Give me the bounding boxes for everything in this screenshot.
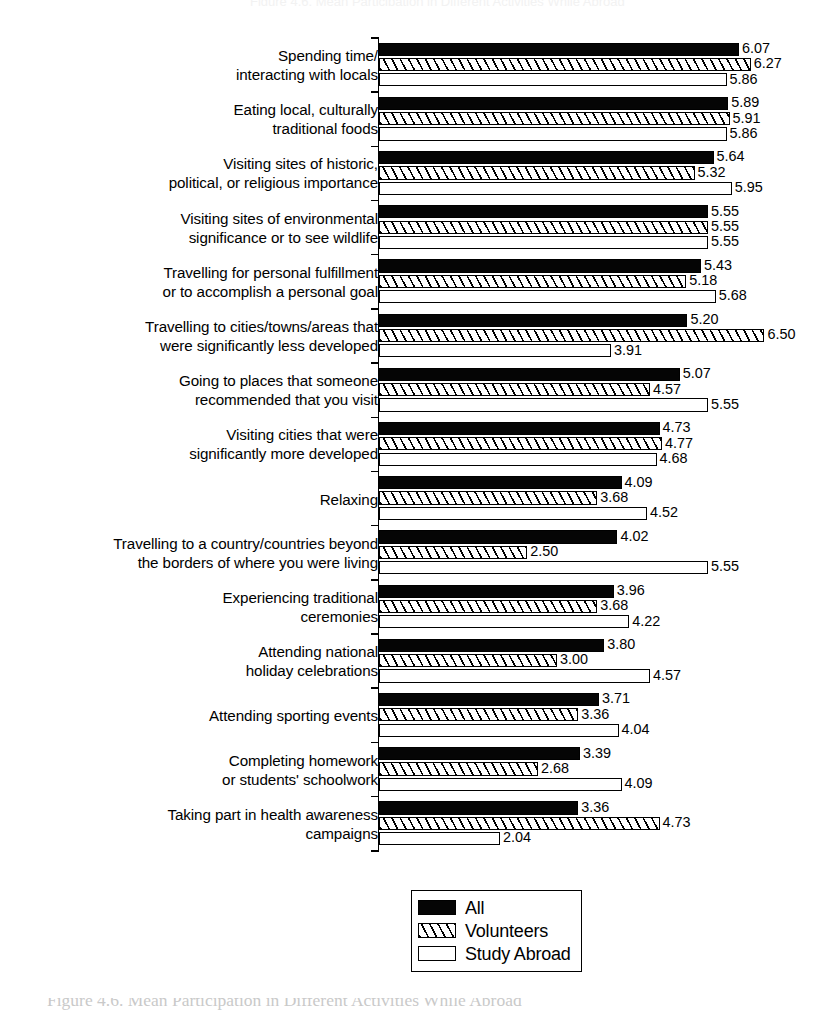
bar-sa bbox=[379, 832, 500, 845]
bar-value-label: 4.04 bbox=[619, 722, 650, 737]
bar-value-label: 5.86 bbox=[727, 126, 758, 141]
bar-row: 5.55 bbox=[379, 205, 819, 220]
bar-value-label: 5.91 bbox=[730, 111, 761, 126]
bar-sa bbox=[379, 398, 708, 411]
bar-value-label: 4.02 bbox=[617, 529, 648, 544]
bar-value-label: 5.55 bbox=[708, 219, 739, 234]
bar-row: 3.36 bbox=[379, 801, 819, 816]
bar-group: Visiting sites of environmental signific… bbox=[0, 201, 834, 255]
bar-row: 5.55 bbox=[379, 235, 819, 250]
bar-row: 3.96 bbox=[379, 584, 819, 599]
bar-value-label: 2.04 bbox=[500, 830, 531, 845]
bar-all bbox=[379, 693, 599, 706]
bar-row: 3.39 bbox=[379, 747, 819, 762]
legend-item-volunteers: Volunteers bbox=[418, 919, 571, 942]
bar-sa bbox=[379, 453, 657, 466]
bar-value-label: 6.07 bbox=[739, 41, 770, 56]
bar-stack: 5.074.575.55 bbox=[379, 367, 819, 413]
bar-vol bbox=[379, 708, 578, 721]
bar-value-label: 4.09 bbox=[622, 776, 653, 791]
bar-row: 2.50 bbox=[379, 545, 819, 560]
bar-row: 4.57 bbox=[379, 669, 819, 684]
legend-label-all: All bbox=[465, 898, 484, 918]
legend-swatch-study-abroad-icon bbox=[418, 946, 456, 961]
category-label: Relaxing bbox=[48, 489, 378, 508]
bar-row: 5.86 bbox=[379, 127, 819, 142]
bar-sa bbox=[379, 507, 647, 520]
bar-all bbox=[379, 422, 660, 435]
bar-sa bbox=[379, 561, 708, 574]
category-label: Completing homework or students' schoolw… bbox=[48, 751, 378, 789]
bar-group: Travelling to a country/countries beyond… bbox=[0, 526, 834, 580]
category-label: Travelling to a country/countries beyond… bbox=[48, 534, 378, 572]
category-label: Experiencing traditional ceremonies bbox=[48, 588, 378, 626]
bar-row: 3.68 bbox=[379, 599, 819, 614]
bar-row: 5.95 bbox=[379, 181, 819, 196]
bar-value-label: 3.36 bbox=[578, 800, 609, 815]
category-label: Travelling for personal fulfillment or t… bbox=[48, 263, 378, 301]
figure-container: Figure 4.6. Mean Participation in Differ… bbox=[0, 0, 834, 1010]
bar-value-label: 3.68 bbox=[597, 598, 628, 613]
bar-row: 6.07 bbox=[379, 42, 819, 57]
bar-row: 4.22 bbox=[379, 615, 819, 630]
bar-value-label: 5.32 bbox=[695, 165, 726, 180]
bar-row: 4.68 bbox=[379, 452, 819, 467]
bar-row: 4.04 bbox=[379, 723, 819, 738]
bar-row: 5.55 bbox=[379, 560, 819, 575]
bar-vol bbox=[379, 654, 557, 667]
bar-vol bbox=[379, 546, 527, 559]
bar-value-label: 5.55 bbox=[708, 559, 739, 574]
bar-sa bbox=[379, 73, 727, 86]
legend-swatch-volunteers-icon bbox=[418, 923, 456, 938]
bar-stack: 3.963.684.22 bbox=[379, 584, 819, 630]
bar-value-label: 5.55 bbox=[708, 204, 739, 219]
bar-value-label: 4.57 bbox=[650, 668, 681, 683]
bar-row: 4.77 bbox=[379, 437, 819, 452]
bar-all bbox=[379, 585, 614, 598]
bar-value-label: 3.71 bbox=[599, 691, 630, 706]
bar-sa bbox=[379, 290, 716, 303]
bar-sa bbox=[379, 778, 622, 791]
bar-row: 4.73 bbox=[379, 816, 819, 831]
bar-row: 5.07 bbox=[379, 367, 819, 382]
bar-row: 4.52 bbox=[379, 506, 819, 521]
category-label: Visiting sites of historic, political, o… bbox=[48, 154, 378, 192]
bar-value-label: 5.20 bbox=[687, 312, 718, 327]
bar-vol bbox=[379, 437, 662, 450]
bar-sa bbox=[379, 669, 650, 682]
bar-value-label: 5.43 bbox=[701, 258, 732, 273]
bar-row: 5.55 bbox=[379, 398, 819, 413]
bar-value-label: 3.91 bbox=[611, 343, 642, 358]
bar-value-label: 5.55 bbox=[708, 234, 739, 249]
category-label: Attending sporting events bbox=[48, 706, 378, 725]
bar-all bbox=[379, 747, 580, 760]
bar-all bbox=[379, 205, 708, 218]
bar-row: 5.18 bbox=[379, 274, 819, 289]
bar-stack: 4.734.774.68 bbox=[379, 421, 819, 467]
bar-value-label: 5.86 bbox=[727, 72, 758, 87]
bar-vol bbox=[379, 275, 686, 288]
bar-group: Going to places that someone recommended… bbox=[0, 363, 834, 417]
bar-row: 5.43 bbox=[379, 259, 819, 274]
category-label: Spending time/ interacting with locals bbox=[48, 46, 378, 84]
bar-row: 5.20 bbox=[379, 313, 819, 328]
bar-value-label: 5.68 bbox=[716, 288, 747, 303]
bar-value-label: 5.64 bbox=[714, 149, 745, 164]
bar-all bbox=[379, 476, 622, 489]
bar-group: Attending national holiday celebrations3… bbox=[0, 634, 834, 688]
bar-value-label: 4.68 bbox=[657, 451, 688, 466]
category-label: Taking part in health awareness campaign… bbox=[48, 805, 378, 843]
bar-row: 5.86 bbox=[379, 73, 819, 88]
bar-stack: 4.022.505.55 bbox=[379, 530, 819, 576]
bar-value-label: 4.09 bbox=[622, 475, 653, 490]
bar-stack: 5.895.915.86 bbox=[379, 96, 819, 142]
bar-value-label: 4.73 bbox=[660, 420, 691, 435]
bar-value-label: 5.89 bbox=[728, 95, 759, 110]
bar-vol bbox=[379, 58, 751, 71]
bar-group: Taking part in health awareness campaign… bbox=[0, 797, 834, 851]
bar-vol bbox=[379, 221, 708, 234]
bar-stack: 3.803.004.57 bbox=[379, 638, 819, 684]
legend-label-study-abroad: Study Abroad bbox=[465, 944, 571, 964]
bar-value-label: 6.50 bbox=[764, 327, 795, 342]
bar-chart-plot-area: Spending time/ interacting with locals6.… bbox=[0, 38, 834, 852]
